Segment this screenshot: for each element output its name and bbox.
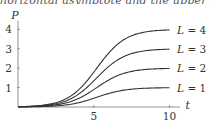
y-tick-label: 1 xyxy=(5,82,12,94)
series-label-L1: L = 1 xyxy=(176,82,206,94)
y-tick-label: 4 xyxy=(5,23,12,35)
axes xyxy=(17,21,180,108)
y-axis-label: P xyxy=(10,9,19,22)
series-label-L2: L = 2 xyxy=(176,62,206,74)
y-tick-label: 2 xyxy=(5,62,12,74)
x-tick-label: 10 xyxy=(163,110,176,122)
x-axis-label: t xyxy=(185,99,190,112)
series-label-L3: L = 3 xyxy=(176,43,206,55)
labels: 5101234PtL = 4L = 3L = 2L = 1 xyxy=(5,9,206,122)
curve-L4 xyxy=(18,30,170,107)
series-label-L4: L = 4 xyxy=(176,24,206,36)
curve-L1 xyxy=(18,88,170,107)
logistic-growth-chart: 5101234PtL = 4L = 3L = 2L = 1 xyxy=(0,0,211,131)
curves xyxy=(18,30,170,107)
y-tick-label: 3 xyxy=(5,43,12,55)
x-tick-label: 5 xyxy=(90,110,97,122)
